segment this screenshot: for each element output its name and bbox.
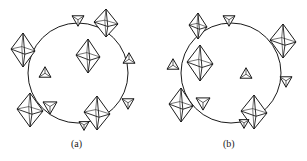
panel-a <box>11 9 135 130</box>
octahedron <box>187 45 213 81</box>
tetrahedron <box>240 68 252 78</box>
octahedron <box>76 39 100 73</box>
tetrahedron <box>223 16 235 26</box>
diagram-canvas <box>0 0 307 161</box>
panel-b <box>167 13 296 129</box>
octahedron <box>169 88 193 122</box>
tetrahedron <box>122 99 134 109</box>
octahedron <box>270 24 296 58</box>
crystal-structure-figure: (a) (b) <box>0 0 307 161</box>
tetrahedron <box>79 122 89 131</box>
tetrahedron <box>39 67 51 77</box>
octahedron <box>84 96 110 130</box>
panel-a-caption: (a) <box>71 138 82 149</box>
tetrahedron <box>72 16 84 26</box>
octahedron <box>189 13 207 39</box>
tetrahedron <box>280 77 292 87</box>
octahedron <box>17 93 43 127</box>
tetrahedron <box>239 120 249 129</box>
tetrahedron <box>43 102 57 114</box>
tetrahedron <box>196 98 210 110</box>
panel-b-caption: (b) <box>223 138 235 149</box>
octahedron <box>94 9 118 37</box>
tetrahedron <box>167 59 179 69</box>
octahedron <box>11 33 35 67</box>
